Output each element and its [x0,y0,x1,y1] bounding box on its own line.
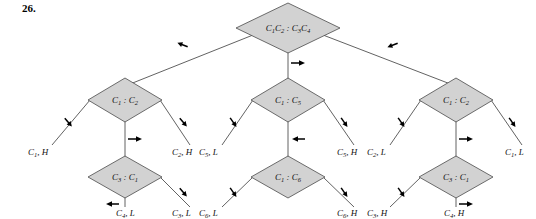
node-right-label: C1 : C2 [443,95,470,106]
arrow-marker-right-branch-r [507,116,518,128]
edge-right-to-leaf10 [491,100,522,145]
arrow-marker-left-lower-leaf [106,201,119,207]
leaf-label-c5h: C5, H [337,147,358,158]
edge-right-to-leaf9 [390,100,421,145]
arrow-marker-left-vertical [128,136,142,142]
leaf-label-c4h: C4, H [444,208,465,219]
edge-left-to-leaf1 [52,100,90,145]
arrow-marker-left-branch-l [63,116,74,128]
arrow-marker-mid-vertical [292,136,305,142]
node-mid-lower-label: C1 : C6 [275,172,302,183]
leaf-label-c2h: C2, H [172,147,193,158]
edge-mid-to-leaf5 [222,100,253,145]
node-right-lower-label: C3 : C1 [443,172,469,183]
arrow-marker-mid-branch-l [228,116,239,128]
decision-tree-svg: C1C2 : C3C4 C1 : C2 C1 : C5 C1 : C2 C3 :… [0,0,536,219]
leaf-label-c3l: C3, L [172,208,191,219]
arrow-marker-mid-branch-r [339,116,350,128]
node-left-lower-label: C3 : C1 [112,172,138,183]
arrow-marker-left-branch-r [178,116,189,128]
arrow-marker-right-vertical [459,136,473,142]
tree-nodes: C1C2 : C3C4 C1 : C2 C1 : C5 C1 : C2 C3 :… [88,3,493,198]
figure-container: 26. [0,0,536,219]
arrow-marker-right-branch-l [396,116,407,128]
arrow-marker-mid-lower-r [339,186,350,198]
arrow-marker-right-lower-leaf [459,201,473,207]
leaf-label-c2l: C2, L [367,147,386,158]
edge-rightlower-to-leaf11 [390,177,421,207]
edge-midlower-to-leaf8 [323,177,354,207]
leaf-label-c4l: C4, L [116,208,135,219]
leaf-label-c6l: C6, L [199,208,218,219]
leaf-label-c1h: C1, H [28,147,49,158]
arrow-marker-root-left [176,40,188,49]
node-left-label: C1 : C2 [112,95,139,106]
leaf-label-c5l: C5, L [199,147,218,158]
leaf-label-c6h: C6, H [337,208,358,219]
leaf-label-c1l: C1, L [505,147,524,158]
node-mid-label: C1 : C5 [275,95,302,106]
arrow-marker-root-right [386,41,398,50]
edge-midlower-to-leaf7 [222,177,253,207]
arrow-marker-root-middle [291,60,305,66]
edge-mid-to-leaf6 [323,100,354,145]
leaf-label-c3h: C3, H [367,208,388,219]
